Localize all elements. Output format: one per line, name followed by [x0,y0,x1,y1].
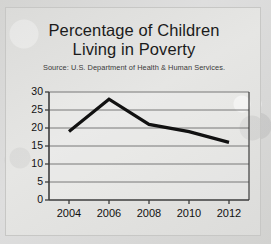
y-tick-label: 0 [21,193,43,205]
y-tick-label: 15 [21,139,43,151]
chart-title-line1: Percentage of Children [49,21,220,39]
y-tick-label: 10 [21,157,43,169]
y-tick-label: 30 [21,85,43,97]
x-tick-label: 2008 [129,207,169,219]
chart-title-line2: Living in Poverty [6,40,262,59]
y-tick-label: 25 [21,103,43,115]
plot-area: 051015202530 20042006200820102012 [21,88,257,224]
slide-panel: Percentage of Children Living in Poverty… [5,7,261,236]
x-tick-label: 2006 [89,207,129,219]
chart-screenshot: Percentage of Children Living in Poverty… [0,0,271,244]
x-tick-label: 2010 [169,207,209,219]
x-tick-label: 2012 [209,207,249,219]
y-tick-label: 5 [21,175,43,187]
y-tick-label: 20 [21,121,43,133]
chart-title: Percentage of Children Living in Poverty [6,21,262,59]
chart-svg [21,88,257,224]
x-tick-label: 2004 [49,207,89,219]
chart-source-note: Source: U.S. Department of Health & Huma… [6,63,262,72]
